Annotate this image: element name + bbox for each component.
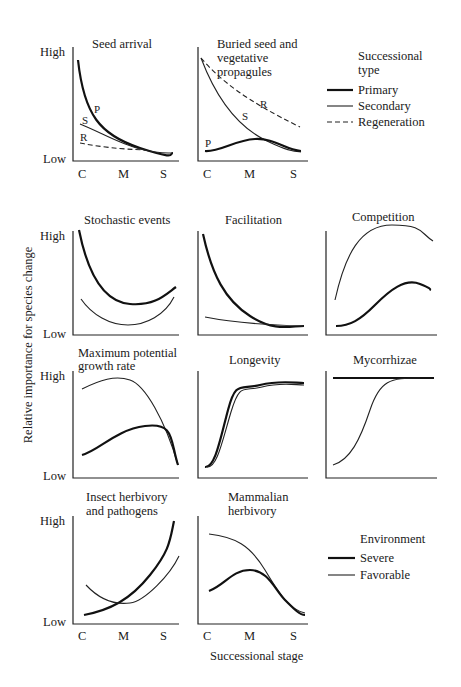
legend-label-favorable: Favorable: [360, 568, 410, 582]
high-label: High: [40, 514, 66, 528]
legend-label-secondary: Secondary: [358, 99, 412, 113]
legend-label-regeneration: Regeneration: [358, 115, 425, 129]
panel-title-line2: and pathogens: [86, 504, 158, 518]
label-p: P: [205, 137, 211, 149]
curve-severe: [336, 282, 431, 326]
panel-title-line1: Maximum potential: [78, 346, 177, 360]
panel-title-line2: vegetative: [217, 51, 269, 65]
panel-seed-arrival: Seed arrival High Low C M S P S R: [40, 37, 179, 181]
low-label: Low: [43, 327, 66, 341]
legend-label-primary: Primary: [358, 83, 399, 97]
curve-favorable: [86, 556, 179, 603]
tick-m: M: [244, 167, 255, 181]
tick-m: M: [118, 629, 129, 643]
label-r: R: [260, 98, 268, 110]
tick-s: S: [290, 167, 297, 181]
curve-favorable: [81, 297, 174, 325]
tick-m: M: [118, 167, 129, 181]
legend-title-2: type: [358, 63, 380, 77]
tick-c: C: [203, 629, 211, 643]
y-axis-label: Relative importance for species change: [21, 246, 35, 443]
curve-severe: [84, 521, 174, 615]
low-label: Low: [43, 615, 66, 629]
panel-facilitation: Facilitation: [198, 213, 308, 335]
curve-severe: [82, 425, 178, 465]
panel-title-line1: Buried seed and: [217, 37, 298, 51]
legend-title: Successional: [358, 49, 423, 63]
legend-successional-type: Successional type Primary Secondary Rege…: [327, 49, 425, 129]
label-p: P: [94, 103, 100, 115]
low-label: Low: [43, 152, 66, 166]
high-label: High: [40, 369, 66, 383]
panel-title-line2: herbivory: [228, 504, 277, 518]
axes: [73, 516, 179, 624]
figure: Relative importance for species change S…: [0, 0, 461, 687]
panel-stochastic-events: Stochastic events High Low: [40, 213, 179, 341]
label-s: S: [242, 110, 248, 122]
curve-favorable: [335, 225, 433, 300]
panel-mammalian-herbivory: Mammalian herbivory C M S Successional s…: [198, 490, 308, 663]
legend-environment: Environment Severe Favorable: [328, 532, 426, 582]
tick-m: M: [244, 629, 255, 643]
tick-s: S: [160, 629, 167, 643]
curve-severe: [209, 570, 305, 615]
curve-severe: [205, 382, 304, 467]
panel-title: Seed arrival: [92, 37, 153, 51]
tick-s: S: [290, 629, 297, 643]
panel-longevity: Longevity: [198, 353, 308, 478]
panel-buried-seed: Buried seed and vegetative propagules C …: [198, 37, 308, 181]
low-label: Low: [43, 469, 66, 483]
panel-title: Mycorrhizae: [353, 353, 417, 367]
panel-title: Longevity: [229, 353, 281, 367]
panel-title-line1: Mammalian: [228, 490, 289, 504]
tick-c: C: [78, 629, 86, 643]
curve-secondary: [80, 124, 173, 153]
panel-title: Stochastic events: [84, 213, 171, 227]
axes: [73, 231, 179, 335]
panel-max-growth-rate: Maximum potential growth rate High Low: [40, 346, 179, 483]
tick-c: C: [203, 167, 211, 181]
curve-severe: [79, 230, 176, 304]
tick-s: S: [160, 167, 167, 181]
label-r: R: [80, 131, 88, 143]
label-s: S: [82, 114, 88, 126]
curve-primary: [78, 60, 173, 155]
curve-favorable: [207, 384, 304, 467]
curve-favorable: [333, 378, 420, 465]
panel-title-line1: Insect herbivory: [86, 490, 168, 504]
panel-title-line3: propagules: [217, 65, 272, 79]
panel-insect-herbivory: Insect herbivory and pathogens High Low …: [40, 490, 179, 643]
high-label: High: [40, 229, 66, 243]
tick-c: C: [78, 167, 86, 181]
legend-label-severe: Severe: [360, 551, 394, 565]
curve-severe: [203, 234, 304, 327]
legend-title: Environment: [360, 532, 426, 546]
curve-favorable: [209, 534, 305, 613]
panel-title: Facilitation: [225, 213, 283, 227]
curve-favorable: [82, 378, 178, 465]
high-label: High: [40, 45, 66, 59]
panel-title-line2: growth rate: [78, 359, 136, 373]
x-axis-label: Successional stage: [210, 649, 304, 663]
panel-mycorrhizae: Mycorrhizae: [326, 353, 437, 478]
axes: [198, 231, 308, 335]
panel-title: Competition: [352, 210, 415, 224]
panel-competition: Competition: [326, 210, 437, 335]
